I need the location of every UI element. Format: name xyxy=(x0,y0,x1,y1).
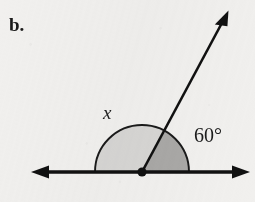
geometry-figure: b. x 60° xyxy=(0,0,255,202)
part-label-b: b. xyxy=(9,15,24,34)
vertex-point xyxy=(137,167,146,176)
angle-label-x: x xyxy=(103,103,111,122)
baseline-right-arrowhead xyxy=(232,166,250,179)
ray-arrowhead xyxy=(215,11,229,27)
baseline-left-arrowhead xyxy=(31,166,49,179)
angle-diagram xyxy=(0,0,255,202)
angle-label-sixty-degrees: 60° xyxy=(194,125,222,145)
